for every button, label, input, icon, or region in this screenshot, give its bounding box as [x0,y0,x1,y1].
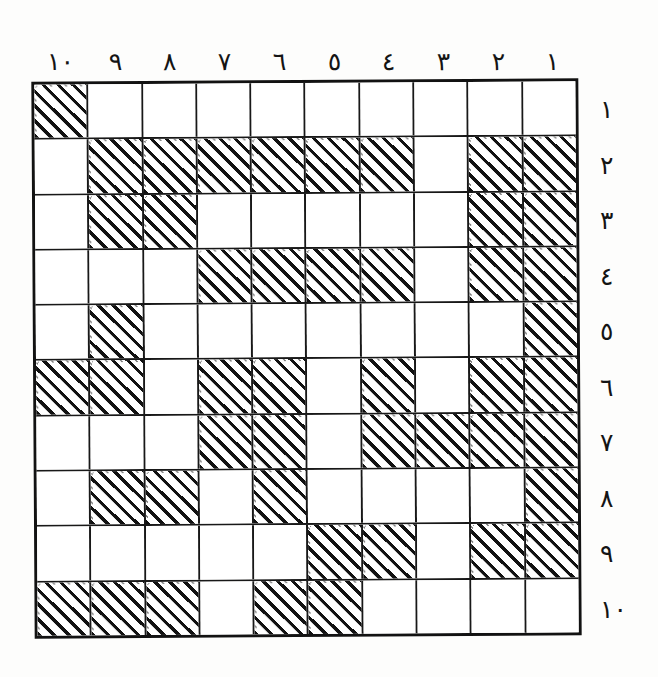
grid-cell-r5-c3[interactable] [144,305,199,359]
grid-cell-r5-c7[interactable] [361,304,416,358]
grid-cell-r3-c4[interactable] [198,194,253,248]
grid-cell-r7-c7[interactable] [362,414,417,468]
grid-cell-r5-c2[interactable] [90,305,145,359]
grid-cell-r1-c3[interactable] [143,84,198,138]
grid-cell-r7-c8[interactable] [416,414,471,468]
grid-cell-r10-c3[interactable] [146,581,201,635]
grid-cell-r9-c5[interactable] [254,525,309,579]
grid-cell-r10-c2[interactable] [92,582,147,636]
grid-cell-r5-c6[interactable] [307,304,362,358]
grid-cell-r10-c6[interactable] [309,580,364,634]
grid-cell-r6-c2[interactable] [90,360,145,414]
grid-cell-r3-c2[interactable] [89,195,144,249]
grid-cell-r6-c7[interactable] [362,359,417,413]
grid-cell-r5-c9[interactable] [470,303,525,357]
grid-cell-r1-c6[interactable] [306,83,361,137]
grid-cell-r9-c10[interactable] [526,524,579,578]
grid-cell-r4-c10[interactable] [524,247,577,301]
grid-cell-r5-c8[interactable] [416,303,471,357]
grid-cell-r7-c1[interactable] [36,416,91,470]
grid-cell-r4-c1[interactable] [35,250,90,304]
grid-cell-r3-c10[interactable] [524,192,577,246]
grid-cell-r6-c3[interactable] [145,360,200,414]
grid-cell-r7-c4[interactable] [199,415,254,469]
grid-cell-r1-c10[interactable] [523,81,576,135]
grid-cell-r2-c5[interactable] [252,138,307,192]
grid-cell-r1-c2[interactable] [89,84,144,138]
grid-cell-r8-c6[interactable] [308,470,363,524]
grid-cell-r10-c7[interactable] [363,580,418,634]
grid-cell-r2-c9[interactable] [469,137,524,191]
grid-cell-r9-c7[interactable] [363,525,418,579]
grid-cell-r1-c4[interactable] [197,83,252,137]
grid-cell-r2-c7[interactable] [360,138,415,192]
grid-cell-r8-c7[interactable] [362,469,417,523]
grid-cell-r8-c1[interactable] [37,471,92,525]
grid-cell-r4-c3[interactable] [144,250,199,304]
grid-cell-r8-c10[interactable] [525,468,578,522]
grid-cell-r1-c8[interactable] [414,82,469,136]
grid-cell-r8-c5[interactable] [254,470,309,524]
grid-cell-r10-c5[interactable] [255,581,310,635]
grid-cell-r4-c2[interactable] [90,250,145,304]
grid-cell-r8-c3[interactable] [145,471,200,525]
grid-cell-r1-c1[interactable] [34,84,89,138]
grid-cell-r8-c4[interactable] [200,470,255,524]
grid-cell-r9-c9[interactable] [471,524,526,578]
grid-cell-r2-c6[interactable] [306,138,361,192]
grid-cell-r8-c8[interactable] [417,469,472,523]
grid-cell-r4-c4[interactable] [198,249,253,303]
grid-cell-r3-c9[interactable] [469,192,524,246]
grid-cell-r10-c9[interactable] [472,579,527,633]
grid-cell-r6-c8[interactable] [416,358,471,412]
grid-cell-r9-c4[interactable] [200,526,255,580]
grid-cell-r6-c4[interactable] [199,360,254,414]
grid-cell-r1-c7[interactable] [360,82,415,136]
grid-cell-r4-c8[interactable] [415,248,470,302]
grid-cell-r7-c2[interactable] [91,416,146,470]
grid-cell-r6-c9[interactable] [470,358,525,412]
grid-cell-r4-c5[interactable] [253,249,308,303]
grid-cell-r10-c8[interactable] [417,580,472,634]
grid-cell-r3-c5[interactable] [252,194,307,248]
grid-cell-r5-c4[interactable] [199,305,254,359]
grid-cell-r2-c8[interactable] [415,137,470,191]
grid-cell-r5-c10[interactable] [524,303,577,357]
grid-cell-r6-c1[interactable] [36,361,91,415]
grid-cell-r9-c8[interactable] [417,524,472,578]
grid-cell-r3-c8[interactable] [415,193,470,247]
grid-cell-r3-c1[interactable] [35,195,90,249]
grid-cell-r10-c4[interactable] [200,581,255,635]
grid-cell-r6-c10[interactable] [525,358,578,412]
grid-cell-r9-c3[interactable] [146,526,201,580]
grid-cell-r2-c4[interactable] [198,139,253,193]
grid-cell-r9-c6[interactable] [309,525,364,579]
grid-cell-r9-c1[interactable] [37,527,92,581]
grid-cell-r2-c1[interactable] [35,140,90,194]
grid-cell-r3-c7[interactable] [361,193,416,247]
grid-cell-r4-c6[interactable] [307,249,362,303]
grid-cell-r8-c2[interactable] [91,471,146,525]
grid-cell-r9-c2[interactable] [91,526,146,580]
grid-cell-r2-c10[interactable] [523,137,576,191]
grid-cell-r7-c3[interactable] [145,415,200,469]
grid-cell-r5-c5[interactable] [253,304,308,358]
grid-cell-r6-c5[interactable] [253,359,308,413]
grid-cell-r1-c5[interactable] [252,83,307,137]
grid-cell-r10-c10[interactable] [526,579,579,633]
grid-cell-r7-c10[interactable] [525,413,578,467]
grid-cell-r3-c3[interactable] [144,194,199,248]
grid-cell-r2-c3[interactable] [143,139,198,193]
grid-cell-r4-c9[interactable] [470,248,525,302]
grid-cell-r7-c6[interactable] [308,414,363,468]
grid-cell-r7-c9[interactable] [471,413,526,467]
grid-cell-r7-c5[interactable] [254,415,309,469]
grid-cell-r4-c7[interactable] [361,248,416,302]
grid-cell-r8-c9[interactable] [471,469,526,523]
grid-cell-r5-c1[interactable] [36,306,91,360]
grid-cell-r3-c6[interactable] [306,193,361,247]
grid-cell-r2-c2[interactable] [89,139,144,193]
grid-cell-r6-c6[interactable] [307,359,362,413]
grid-cell-r1-c9[interactable] [469,82,524,136]
grid-cell-r10-c1[interactable] [37,582,92,636]
